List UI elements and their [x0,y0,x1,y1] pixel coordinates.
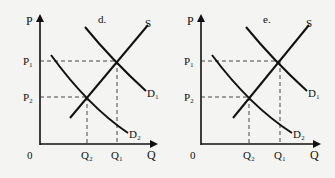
quantity-label-q2: Q₂ [81,149,93,161]
supply-curve [233,25,309,118]
x-axis-label: Q [310,148,319,162]
guide-lines [40,61,117,144]
price-label-p1: P₁ [184,55,194,67]
x-axis-label: Q [147,148,156,162]
price-label-p2: P₂ [23,91,33,103]
y-axis-label: P [26,14,33,28]
panel-title: d. [98,13,107,25]
supply-curve [70,25,148,118]
panel-e: e. P Q 0 P₁ P₂ Q₂ Q₁ S D₁ D₂ [184,13,320,162]
quantity-label-q1: Q₁ [274,149,286,161]
price-label-p1: P₁ [23,55,33,67]
origin-label: 0 [27,149,33,161]
origin-label: 0 [190,149,196,161]
quantity-label-q1: Q₁ [111,149,123,161]
supply-label: S [306,17,312,29]
supply-label: S [145,17,151,29]
demand2-label: D₂ [129,128,141,140]
demand1-label: D₁ [147,87,159,99]
quantity-label-q2: Q₂ [243,149,255,161]
demand-curve-d1 [246,27,307,91]
y-axis-label: P [187,14,194,28]
panel-d: d. P Q 0 P₁ P₂ Q₂ Q₁ S D₁ D₂ [23,13,159,162]
panel-title: e. [263,13,271,25]
demand2-label: D₂ [293,128,305,140]
diagram-canvas: d. P Q 0 P₁ P₂ Q₂ Q₁ S D₁ D₂ e. P Q 0 P₁… [0,0,335,178]
price-label-p2: P₂ [184,91,194,103]
supply-demand-figure: d. P Q 0 P₁ P₂ Q₂ Q₁ S D₁ D₂ e. P Q 0 P₁… [0,0,335,178]
demand-curve-d1 [85,27,146,91]
demand1-label: D₁ [308,87,320,99]
